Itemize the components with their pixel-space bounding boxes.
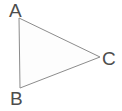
vertex-label-a: A (9, 1, 22, 20)
vertex-label-b: B (10, 89, 23, 108)
triangle-figure: A B C (0, 0, 122, 111)
vertex-label-c: C (102, 49, 116, 68)
triangle-shape (19, 18, 100, 88)
